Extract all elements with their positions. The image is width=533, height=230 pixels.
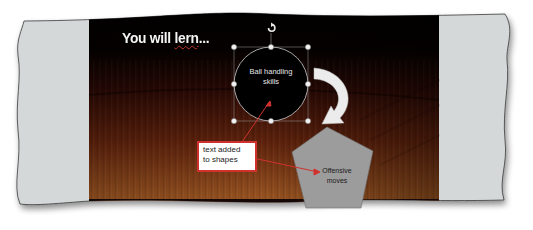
callout-line1: text added (203, 145, 255, 155)
misspelled-word[interactable]: lern (174, 29, 198, 46)
annotation-callout: text added to shapes (197, 141, 257, 172)
pentagon-text-line2: moves (307, 176, 367, 186)
pentagon-shape-text[interactable]: Offensive moves (307, 166, 367, 186)
callout-line2: to shapes (203, 155, 255, 165)
circle-shape-text[interactable]: Ball handling skills (240, 67, 302, 87)
circle-text-line2: skills (240, 77, 302, 87)
title-suffix: ... (199, 29, 210, 46)
title-prefix: You will (122, 29, 174, 46)
slide-canvas (0, 0, 533, 230)
slide-title[interactable]: You will lern... (122, 29, 209, 46)
pentagon-text-line1: Offensive (307, 166, 367, 176)
circle-text-line1: Ball handling (240, 67, 302, 77)
slide-screenshot: You will lern... Ball handling skills te… (0, 0, 533, 230)
